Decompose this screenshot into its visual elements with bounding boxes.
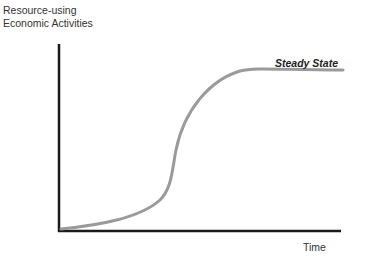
x-axis-label: Time bbox=[303, 241, 326, 253]
s-curve-diagram bbox=[0, 0, 367, 262]
growth-curve bbox=[61, 69, 343, 229]
steady-state-label: Steady State bbox=[275, 57, 338, 69]
